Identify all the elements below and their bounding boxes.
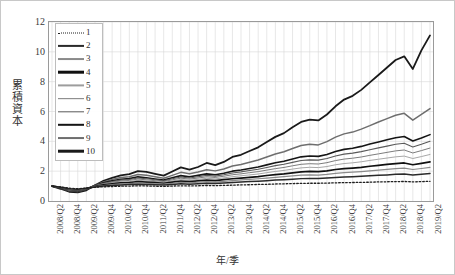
legend-swatch-icon xyxy=(58,147,84,156)
legend-label: 8 xyxy=(86,120,91,129)
x-tick-label: 2017/Q2 xyxy=(364,204,374,234)
legend-item-9[interactable]: 9 xyxy=(56,132,102,145)
legend-item-4[interactable]: 4 xyxy=(56,66,102,79)
legend-item-7[interactable]: 7 xyxy=(56,105,102,118)
legend-swatch-icon xyxy=(58,41,84,50)
x-tick-label: 2010/Q4 xyxy=(140,204,150,234)
legend-label: 6 xyxy=(86,94,91,103)
x-tick-label: 2018/Q2 xyxy=(398,204,408,234)
legend-item-3[interactable]: 3 xyxy=(56,52,102,65)
y-tick-label: 10 xyxy=(19,45,45,56)
x-tick-label: 2015/Q4 xyxy=(312,204,322,234)
legend-swatch-icon xyxy=(58,68,84,77)
x-tick-label: 2015/Q2 xyxy=(295,204,305,234)
x-axis-title: 年/季 xyxy=(1,252,454,267)
x-tick-label: 2018/Q4 xyxy=(415,204,425,234)
legend-swatch-icon xyxy=(58,54,84,63)
legend-label: 5 xyxy=(86,81,91,90)
legend-item-10[interactable]: 10 xyxy=(56,145,102,158)
legend-item-2[interactable]: 2 xyxy=(56,39,102,52)
y-tick-label: 4 xyxy=(19,135,45,146)
legend-label: 10 xyxy=(86,147,95,156)
legend-swatch-icon xyxy=(58,94,84,103)
x-tick-label: 2011/Q4 xyxy=(175,204,185,233)
legend-label: 3 xyxy=(86,54,91,63)
legend-swatch-icon xyxy=(58,120,84,129)
x-tick-label: 2017/Q4 xyxy=(381,204,391,234)
legend-swatch-icon xyxy=(58,81,84,90)
legend-label: 9 xyxy=(86,134,91,143)
x-tick-label: 2012/Q2 xyxy=(192,204,202,234)
y-tick-label: 6 xyxy=(19,105,45,116)
x-tick-label: 2012/Q4 xyxy=(209,204,219,234)
x-tick-label: 2008/Q4 xyxy=(72,204,82,234)
chart-figure: 累積資本 024681012 12345678910 2008/Q22008/Q… xyxy=(0,0,455,275)
x-tick-label: 2008/Q2 xyxy=(55,204,65,234)
legend-label: 4 xyxy=(86,68,91,77)
chart-legend: 12345678910 xyxy=(55,23,103,161)
x-tick-label: 2019/Q2 xyxy=(433,204,443,234)
x-tick-label: 2009/Q4 xyxy=(106,204,116,234)
plot-area xyxy=(48,21,434,202)
legend-item-5[interactable]: 5 xyxy=(56,79,102,92)
x-tick-label: 2013/Q4 xyxy=(244,204,254,234)
legend-swatch-icon xyxy=(58,28,84,37)
x-tick-label: 2016/Q4 xyxy=(347,204,357,234)
series-canvas xyxy=(49,22,433,201)
legend-label: 7 xyxy=(86,107,91,116)
x-tick-label: 2010/Q2 xyxy=(123,204,133,234)
legend-swatch-icon xyxy=(58,107,84,116)
legend-label: 1 xyxy=(86,28,91,37)
x-tick-label: 2016/Q2 xyxy=(329,204,339,234)
x-tick-label: 2014/Q2 xyxy=(261,204,271,234)
y-tick-label: 8 xyxy=(19,75,45,86)
x-tick-label: 2009/Q2 xyxy=(89,204,99,234)
legend-item-1[interactable]: 1 xyxy=(56,26,102,39)
y-tick-label: 0 xyxy=(19,195,45,206)
x-tick-label: 2013/Q2 xyxy=(226,204,236,234)
legend-label: 2 xyxy=(86,41,91,50)
legend-swatch-icon xyxy=(58,134,84,143)
legend-item-6[interactable]: 6 xyxy=(56,92,102,105)
y-tick-label: 2 xyxy=(19,165,45,176)
legend-item-8[interactable]: 8 xyxy=(56,118,102,131)
x-tick-label: 2014/Q4 xyxy=(278,204,288,234)
x-tick-label: 2011/Q2 xyxy=(158,204,168,233)
y-tick-label: 12 xyxy=(19,16,45,27)
y-axis-tick-labels: 024681012 xyxy=(1,1,45,275)
